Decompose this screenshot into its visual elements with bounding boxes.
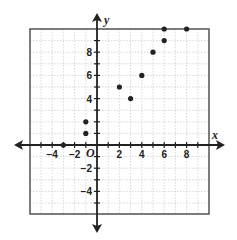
x-tick-label: 8 [184, 149, 190, 160]
x-tick-label: −2 [69, 149, 81, 160]
data-point [139, 73, 144, 78]
data-point [162, 38, 167, 43]
data-point [61, 142, 66, 147]
origin-label: O [86, 146, 95, 160]
x-tick-label: 6 [161, 149, 167, 160]
x-axis-label: x [211, 128, 218, 142]
data-point [150, 50, 155, 55]
y-tick-label: −2 [81, 163, 93, 174]
x-tick-label: −4 [46, 149, 58, 160]
data-point [117, 84, 122, 89]
coordinate-plane: −4−22468864−2−4 x y O [0, 0, 237, 240]
data-point [128, 96, 133, 101]
y-tick-label: −4 [81, 186, 93, 197]
tick-labels: −4−22468864−2−4 [46, 47, 189, 197]
y-tick-label: 4 [86, 94, 92, 105]
data-point [162, 26, 167, 31]
grid-lines [30, 29, 209, 215]
data-point [83, 119, 88, 124]
y-axis-label: y [102, 13, 110, 27]
data-point [184, 26, 189, 31]
x-tick-label: 2 [117, 149, 123, 160]
data-point [83, 131, 88, 136]
data-points [61, 26, 189, 147]
x-tick-label: 4 [139, 149, 145, 160]
y-tick-label: 8 [86, 47, 92, 58]
y-tick-label: 6 [86, 70, 92, 81]
